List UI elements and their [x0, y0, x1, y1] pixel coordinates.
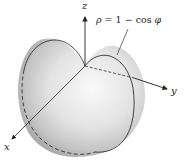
- x-axis-label: x: [4, 142, 10, 152]
- cardioid-surface: [18, 38, 145, 157]
- y-axis-label: y: [171, 86, 177, 96]
- cardioid-diagram: z y x ρ = 1 − cos φ: [0, 0, 191, 163]
- equation-body: = 1 − cos: [102, 14, 155, 25]
- phi-symbol: φ: [155, 14, 162, 25]
- z-axis-label: z: [82, 1, 87, 11]
- equation-label: ρ = 1 − cos φ: [96, 15, 161, 25]
